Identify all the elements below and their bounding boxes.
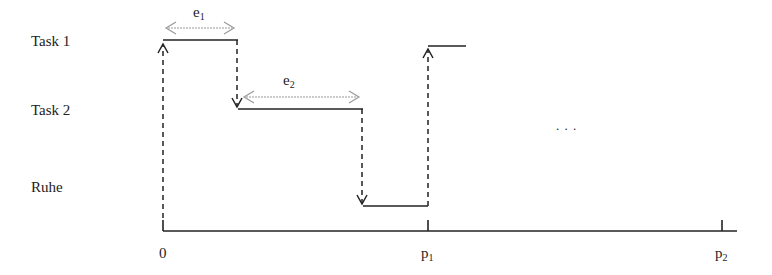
arrowhead-up-icon: [423, 49, 433, 58]
timeline-diagram: [0, 0, 772, 275]
arrowhead-down-icon: [232, 98, 242, 107]
